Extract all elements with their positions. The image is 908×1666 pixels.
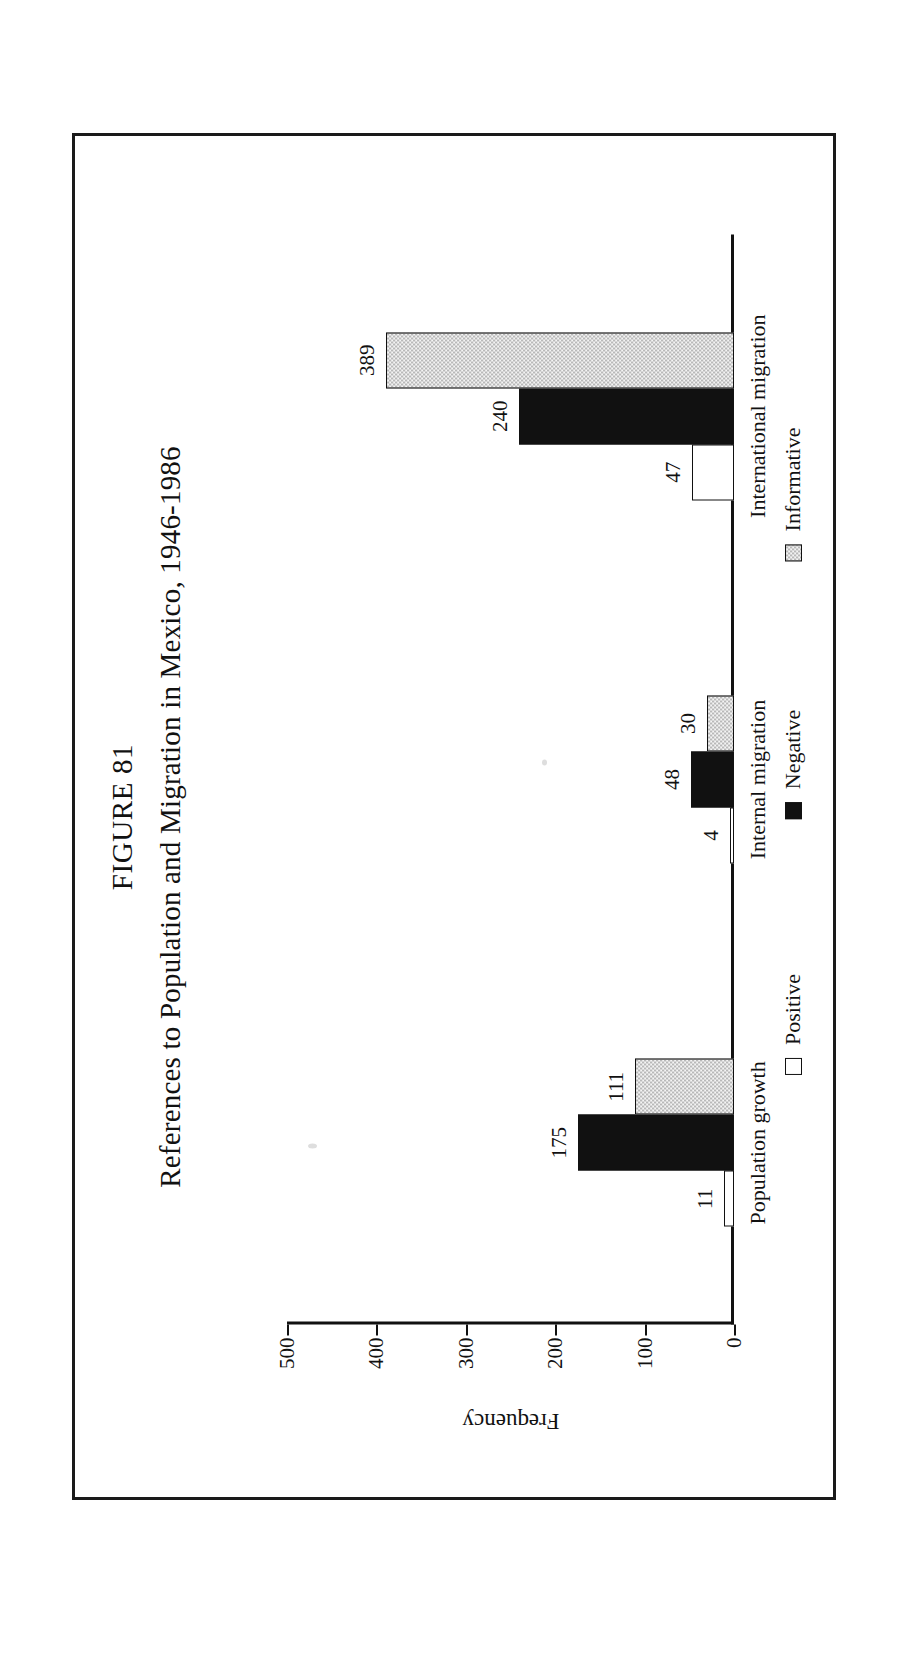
figure-number: FIGURE 81	[106, 133, 139, 1500]
bar-informative: 30	[707, 695, 734, 751]
bar-positive: 4	[730, 807, 734, 863]
bar-negative: 175	[578, 1114, 734, 1170]
chart-legend: PositiveNegativeInformative	[780, 234, 820, 1324]
category-label: Internal migration	[745, 699, 771, 858]
tick-mark	[734, 1324, 736, 1335]
bar-positive: 11	[724, 1170, 734, 1226]
bar-value-label: 48	[660, 769, 685, 790]
bar-positive: 47	[692, 444, 734, 500]
bar-informative: 389	[386, 332, 734, 388]
legend-item-positive[interactable]: Positive	[780, 974, 806, 1075]
bar-value-label: 4	[699, 830, 724, 841]
figure-page-frame: FIGURE 81 References to Population and M…	[72, 133, 836, 1500]
tick-label: 300	[453, 1337, 478, 1369]
tick-mark	[376, 1324, 378, 1335]
legend-label: Negative	[780, 709, 806, 788]
legend-item-negative[interactable]: Negative	[780, 709, 806, 818]
value-axis-title: Frequency	[462, 1407, 559, 1433]
bar-negative: 240	[519, 388, 734, 444]
tick-label: 500	[275, 1337, 300, 1369]
tick-label: 400	[364, 1337, 389, 1369]
tick-label: 0	[722, 1337, 747, 1348]
bar-value-label: 111	[604, 1071, 629, 1101]
bar-group: 11175111Population growth	[287, 1058, 734, 1226]
figure-body: FIGURE 81 References to Population and M…	[72, 133, 836, 1500]
bar-value-label: 47	[661, 461, 686, 482]
legend-label: Informative	[780, 427, 806, 531]
bar-value-label: 11	[693, 1188, 718, 1208]
legend-swatch-negative-icon	[785, 802, 802, 819]
scan-speck	[308, 1143, 317, 1148]
bar-value-label: 389	[355, 344, 380, 376]
figure-title: References to Population and Migration i…	[154, 133, 187, 1500]
bar-negative: 48	[691, 751, 734, 807]
tick-mark	[287, 1324, 289, 1335]
legend-swatch-positive-icon	[785, 1057, 802, 1074]
tick-label: 200	[543, 1337, 568, 1369]
bar-group: 47240389International migration	[287, 332, 734, 500]
legend-item-informative[interactable]: Informative	[780, 427, 806, 561]
bar-informative: 111	[635, 1058, 734, 1114]
rotated-figure-canvas: FIGURE 81 References to Population and M…	[72, 133, 836, 1500]
plot-area: Frequency 0100200300400500 11175111Popul…	[287, 234, 734, 1324]
tick-mark	[555, 1324, 557, 1335]
tick-mark	[466, 1324, 468, 1335]
bar-group: 44830Internal migration	[287, 695, 734, 863]
value-axis-line	[287, 1321, 734, 1324]
legend-swatch-informative-icon	[785, 544, 802, 561]
tick-label: 100	[632, 1337, 657, 1369]
legend-label: Positive	[780, 974, 806, 1045]
bar-value-label: 175	[547, 1127, 572, 1159]
tick-mark	[645, 1324, 647, 1335]
bar-value-label: 30	[676, 713, 701, 734]
category-label: International migration	[745, 314, 771, 517]
bar-value-label: 240	[488, 400, 513, 432]
scan-speck	[542, 759, 547, 765]
category-label: Population growth	[745, 1061, 771, 1224]
